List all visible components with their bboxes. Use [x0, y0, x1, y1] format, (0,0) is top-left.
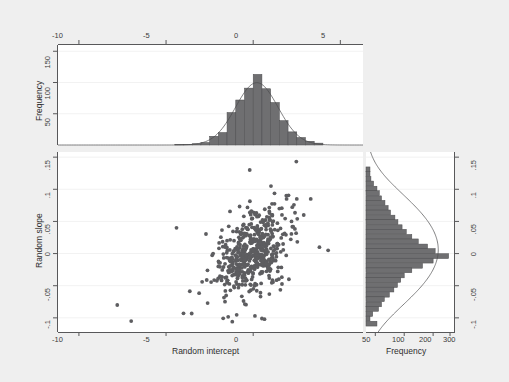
right-y-tick-label-0: .15 [470, 160, 478, 170]
top-y-tick-label-50: 50 [44, 118, 52, 126]
right-x-tick-label-1: 100 [392, 336, 405, 344]
y-tick-label-1: .1 [44, 192, 52, 198]
right-y-tick-label-3: 0 [470, 252, 478, 256]
right-y-tick-label-1: .1 [470, 192, 478, 198]
right-x-tick-label-2: 200 [419, 336, 432, 344]
y-tick-label-0: .15 [44, 160, 52, 170]
plot-canvas [0, 0, 509, 382]
right-y-tick-label-4: -.05 [470, 288, 478, 301]
y-tick-label-4: -.05 [44, 288, 52, 301]
top-y-tick-label-150: 150 [44, 56, 52, 69]
bottom-x-tick-label-0: -10 [52, 336, 63, 344]
x-tick-label-0: -10 [52, 32, 63, 40]
y-tick-label-5: -.1 [44, 320, 52, 329]
top-y-axis-title: Frequency [34, 81, 44, 121]
right-x-axis-title: Frequency [386, 346, 426, 356]
right-x-tick-label-0: 50 [362, 336, 370, 344]
x-tick-label-1: -5 [143, 32, 150, 40]
x-tick-label-3: 5 [321, 32, 325, 40]
bottom-x-tick-label-1: -5 [143, 336, 150, 344]
x-tick-label-2: 0 [234, 32, 238, 40]
y-tick-label-2: .05 [44, 224, 52, 234]
right-y-tick-label-5: -.1 [470, 320, 478, 329]
right-x-tick-label-3: 300 [443, 336, 456, 344]
y-tick-label-3: 0 [44, 252, 52, 256]
figure-root: -10 -5 0 5 -10 -5 0 Random intercept 150… [0, 0, 509, 382]
top-y-tick-label-100: 100 [44, 87, 52, 100]
x-axis-title: Random intercept [172, 346, 239, 356]
right-y-tick-label-2: .05 [470, 224, 478, 234]
y-axis-title: Random slope [34, 213, 44, 268]
bottom-x-tick-label-2: 0 [234, 336, 238, 344]
